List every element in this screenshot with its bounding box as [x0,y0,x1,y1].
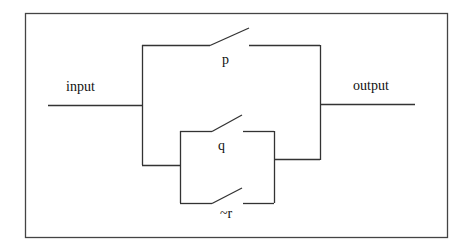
switch-q-label: q [218,138,225,153]
output-label: output [353,78,389,93]
switch-p [142,28,320,46]
switch-q [180,115,274,132]
diagram-frame [26,14,448,238]
switch-p-label: p [222,52,229,67]
switch-not-r-label: ~r [220,206,233,221]
input-label: input [66,79,95,94]
switch-not-r [180,188,274,204]
circuit-diagram: input p output q ~r [0,0,470,248]
